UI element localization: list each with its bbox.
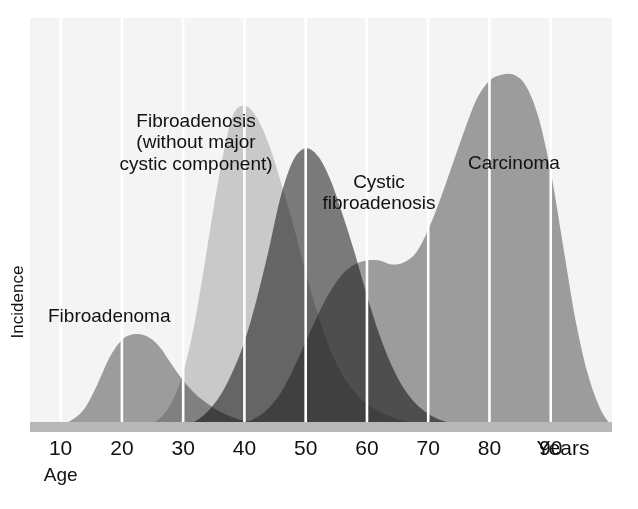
gridline-10 bbox=[59, 18, 62, 426]
chart-svg bbox=[30, 18, 612, 432]
x-tick-label-40: 40 bbox=[214, 436, 274, 460]
x-axis-title: Age bbox=[26, 464, 96, 486]
gridline-40 bbox=[243, 18, 246, 426]
x-tick-label-30: 30 bbox=[153, 436, 213, 460]
y-axis-label: Incidence bbox=[8, 232, 28, 372]
baseline-band bbox=[30, 422, 612, 432]
x-tick-label-60: 60 bbox=[337, 436, 397, 460]
x-tick-label-10: 10 bbox=[31, 436, 91, 460]
gridline-70 bbox=[427, 18, 430, 426]
x-tick-label-20: 20 bbox=[92, 436, 152, 460]
x-axis-unit-label: Years bbox=[518, 436, 608, 460]
breast-disease-incidence-figure: Fibroadenoma Fibroadenosis (without majo… bbox=[0, 0, 638, 509]
x-tick-label-70: 70 bbox=[398, 436, 458, 460]
gridline-80 bbox=[488, 18, 491, 426]
x-tick-label-80: 80 bbox=[459, 436, 519, 460]
chart-plot-area bbox=[30, 18, 612, 432]
gridline-30 bbox=[182, 18, 185, 426]
gridline-90 bbox=[549, 18, 552, 426]
gridline-20 bbox=[121, 18, 124, 426]
gridline-60 bbox=[366, 18, 369, 426]
gridline-50 bbox=[304, 18, 307, 426]
x-tick-label-50: 50 bbox=[276, 436, 336, 460]
